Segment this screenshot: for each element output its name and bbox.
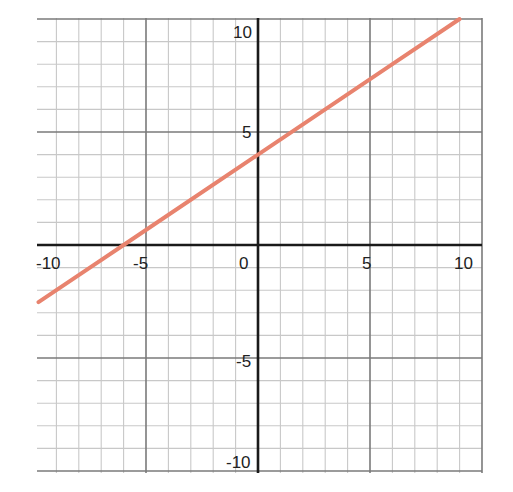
y-tick-label: 5 [242, 123, 251, 142]
x-tick-label: 10 [454, 254, 473, 273]
y-tick-labels: 10 5 -5 -10 [226, 23, 252, 472]
coordinate-plane: -10 -5 0 5 10 10 5 -5 -10 [0, 0, 513, 492]
x-tick-label: 5 [362, 254, 371, 273]
y-tick-label: -5 [236, 352, 251, 371]
x-tick-label: -10 [36, 254, 61, 273]
x-tick-label: 0 [239, 254, 248, 273]
y-tick-label: 10 [233, 23, 252, 42]
x-tick-label: -5 [133, 254, 148, 273]
y-tick-label: -10 [226, 453, 251, 472]
